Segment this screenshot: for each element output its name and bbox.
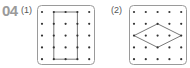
grid-dot (157, 58, 159, 60)
grid-dot (133, 58, 135, 60)
grid-dot (88, 46, 90, 48)
grid-dot (88, 58, 90, 60)
grid-dot (168, 46, 170, 48)
problem-number: 04 (2, 2, 18, 19)
grid-dot (76, 46, 78, 48)
grid-dot (145, 35, 147, 37)
grid-dot (65, 58, 67, 60)
grid-dot (76, 58, 78, 60)
grid-dot (65, 35, 67, 37)
part-1-label: (1) (21, 5, 32, 15)
grid-dot (168, 35, 170, 37)
grid-dot (168, 23, 170, 25)
grid-dot (41, 58, 43, 60)
grid-dot (168, 58, 170, 60)
grid-dot (133, 23, 135, 25)
dot-grid-1 (37, 5, 95, 65)
grid-dot (41, 35, 43, 37)
grid-dot (65, 23, 67, 25)
grid-dot (145, 58, 147, 60)
grid-dot (145, 11, 147, 13)
grid-dot (76, 11, 78, 13)
grid-dot (88, 23, 90, 25)
grid-dot (157, 46, 159, 48)
grid-dot (180, 35, 182, 37)
grid-dot (157, 35, 159, 37)
grid-dot (65, 46, 67, 48)
grid-dot (53, 11, 55, 13)
grid-dot (41, 46, 43, 48)
part-2-label: (2) (111, 5, 122, 15)
grid-dot (41, 23, 43, 25)
grid-dot (180, 58, 182, 60)
grid-dot (157, 23, 159, 25)
grid-dot (53, 35, 55, 37)
grid-dot (145, 46, 147, 48)
dot-grid-2 (129, 5, 187, 65)
grid-dot (133, 11, 135, 13)
grid-dot (180, 46, 182, 48)
grid-dot (53, 23, 55, 25)
grid-dot (168, 11, 170, 13)
grid-dot (145, 23, 147, 25)
grid-dot (76, 35, 78, 37)
grid-dot (88, 11, 90, 13)
grid-dot (65, 11, 67, 13)
grid-dot (133, 46, 135, 48)
grid-dot (76, 23, 78, 25)
dot-grid-1-svg (37, 5, 95, 65)
dot-grid-2-svg (129, 5, 187, 65)
grid-dot (88, 35, 90, 37)
grid-dot (180, 23, 182, 25)
grid-dot (53, 46, 55, 48)
grid-dot (180, 11, 182, 13)
grid-dot (41, 11, 43, 13)
grid-dot (133, 35, 135, 37)
grid-dot (53, 58, 55, 60)
grid-dot (157, 11, 159, 13)
